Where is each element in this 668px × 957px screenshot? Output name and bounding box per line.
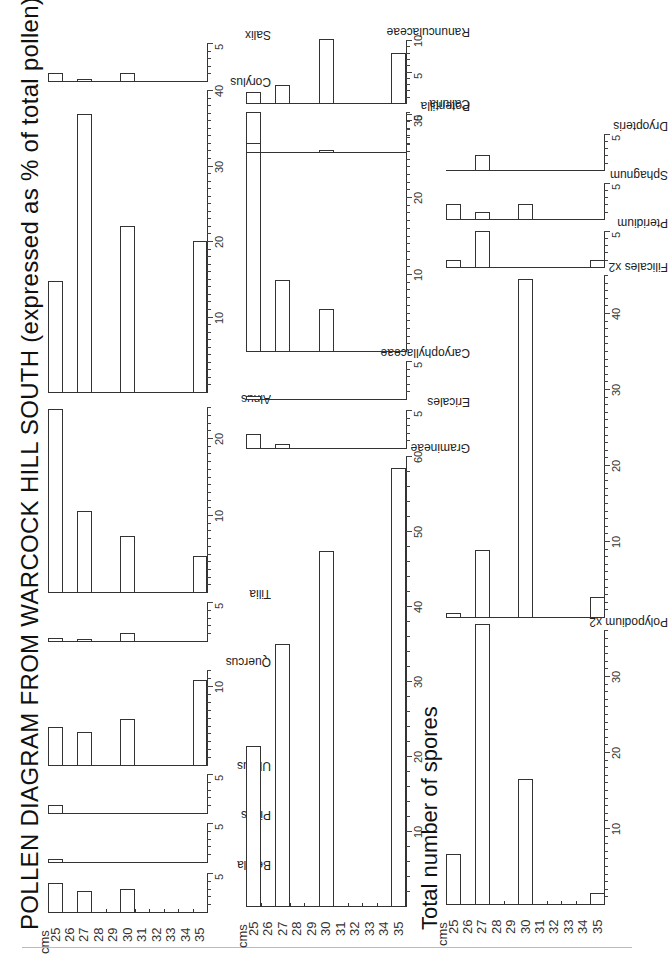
bar-tilia-30 xyxy=(120,633,135,642)
scale-tick xyxy=(207,271,211,272)
scale-tick xyxy=(207,256,211,257)
scale-label: 10 xyxy=(611,823,622,835)
scale-label: 10 xyxy=(214,311,225,323)
scale-tick xyxy=(207,904,211,905)
depth-label: 25 xyxy=(49,928,62,942)
scale-axis xyxy=(406,114,407,154)
scale-tick xyxy=(207,135,211,136)
scale-tick xyxy=(604,374,608,375)
scale-tick xyxy=(406,861,410,862)
scale-tick xyxy=(207,530,211,531)
depth-label: 32 xyxy=(547,920,560,934)
scale-tick xyxy=(604,533,608,534)
scale-tick xyxy=(406,72,412,73)
depth-label: 29 xyxy=(504,920,517,934)
scale-tick xyxy=(406,876,410,877)
diagram-title: POLLEN DIAGRAM FROM WARCOCK HILL SOUTH (… xyxy=(16,0,44,930)
bar-filicales-35 xyxy=(590,597,605,618)
scale-axis xyxy=(406,361,407,400)
scale-tick xyxy=(604,518,608,519)
scale-tick xyxy=(604,283,608,284)
scale-tick xyxy=(207,203,211,204)
depth-label: 34 xyxy=(576,920,589,934)
scale-tick xyxy=(604,343,608,344)
scale-tick xyxy=(207,492,211,493)
scale-tick xyxy=(207,128,211,129)
bar-ranunculaceae-35 xyxy=(391,53,406,104)
scale-tick xyxy=(207,678,211,679)
bar-salix-25 xyxy=(48,73,63,82)
bar-sphagnum-25 xyxy=(446,204,461,220)
scale-tick xyxy=(207,150,211,151)
depth-label: 27 xyxy=(276,922,289,936)
scale-tick xyxy=(207,173,211,174)
bar-pteridium-27 xyxy=(475,231,490,269)
bar-pinus-25 xyxy=(48,859,63,863)
scale-tick xyxy=(207,453,211,454)
scale-tick xyxy=(207,301,211,302)
scale-label: 20 xyxy=(214,236,225,248)
scale-label: 30 xyxy=(611,671,622,683)
scale-tick xyxy=(406,189,410,190)
scale-tick xyxy=(406,831,412,832)
bar-betula-27 xyxy=(77,891,92,913)
scale-tick xyxy=(406,384,410,385)
scale-tick xyxy=(604,495,608,496)
scale-tick xyxy=(604,782,608,783)
taxon-label: Polypodium x2 xyxy=(596,616,668,628)
scale-tick xyxy=(406,90,410,91)
scale-tick xyxy=(604,488,608,489)
bar-gramineae-25 xyxy=(246,746,261,907)
scale-tick xyxy=(406,433,410,434)
scale-tick xyxy=(207,618,211,619)
scale-tick xyxy=(406,197,412,198)
scale-tick xyxy=(207,889,211,890)
scale-tick xyxy=(207,554,211,555)
scale-tick xyxy=(604,805,608,806)
bar-alnus-27 xyxy=(77,511,92,593)
scale-label: 20 xyxy=(611,747,622,759)
scale-tick xyxy=(406,456,412,457)
scale-tick xyxy=(406,696,410,697)
bar-corylus-35 xyxy=(193,241,208,393)
scale-tick xyxy=(207,226,211,227)
bar-betula-25 xyxy=(48,883,63,913)
scale-tick xyxy=(604,579,608,580)
scale-tick xyxy=(207,718,211,719)
scale-tick xyxy=(406,591,410,592)
scale-tick xyxy=(207,805,211,806)
scale-tick xyxy=(406,282,410,283)
bar-potentilla-25 xyxy=(246,143,261,153)
scale-label: 5 xyxy=(214,603,225,609)
panel-baseline xyxy=(246,399,406,400)
scale-tick xyxy=(406,410,412,411)
scale-label: 30 xyxy=(413,676,424,688)
bar-tilia-27 xyxy=(77,639,92,642)
scale-tick xyxy=(604,874,608,875)
scale-label: 5 xyxy=(413,72,424,78)
depth-label: 30 xyxy=(319,922,332,936)
scale-tick xyxy=(406,297,410,298)
scale-tick xyxy=(207,749,211,750)
scale-tick xyxy=(406,343,410,344)
scale-tick xyxy=(604,630,608,631)
scale-tick xyxy=(604,190,608,191)
scale-tick xyxy=(406,320,410,321)
scale-tick xyxy=(604,366,608,367)
panel-baseline xyxy=(48,813,207,814)
scale-tick xyxy=(406,220,410,221)
scale-tick xyxy=(207,98,211,99)
scale-tick xyxy=(604,412,608,413)
scale-label: 30 xyxy=(214,160,225,172)
scale-tick xyxy=(406,666,410,667)
depth-label: 29 xyxy=(305,922,318,936)
scale-tick xyxy=(406,121,410,122)
scale-tick xyxy=(406,471,410,472)
depth-label: 31 xyxy=(533,920,546,934)
depth-label: 32 xyxy=(150,928,163,942)
scale-tick xyxy=(406,129,410,130)
bar-corylus-27 xyxy=(77,114,92,393)
bar-pteridium-35 xyxy=(590,260,605,268)
footer-rule xyxy=(22,947,632,948)
scale-tick xyxy=(406,531,412,532)
